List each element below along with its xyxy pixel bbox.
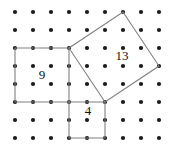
lattice-dot bbox=[49, 118, 53, 122]
lattice-dot bbox=[85, 10, 89, 14]
lattice-dot bbox=[121, 100, 125, 104]
figure-canvas: 9134 bbox=[0, 0, 179, 148]
lattice-dot bbox=[139, 64, 143, 68]
lattice-dot bbox=[121, 136, 125, 140]
lattice-dot bbox=[31, 10, 35, 14]
lattice-dot bbox=[31, 118, 35, 122]
lattice-dot bbox=[157, 100, 161, 104]
lattice-dot bbox=[121, 118, 125, 122]
lattice-dot bbox=[157, 118, 161, 122]
lattice-dot bbox=[49, 64, 53, 68]
lattice-dot bbox=[13, 136, 17, 140]
area-label: 13 bbox=[116, 48, 129, 63]
lattice-dot bbox=[31, 28, 35, 32]
lattice-dot bbox=[85, 118, 89, 122]
lattice-dot bbox=[103, 28, 107, 32]
lattice-dot bbox=[121, 82, 125, 86]
lattice-dot bbox=[85, 28, 89, 32]
lattice-dot bbox=[157, 28, 161, 32]
area-label: 4 bbox=[85, 103, 92, 118]
area-label: 9 bbox=[39, 67, 46, 82]
lattice-dot bbox=[49, 82, 53, 86]
lattice-dot bbox=[85, 64, 89, 68]
lattice-dot bbox=[13, 118, 17, 122]
lattice-dot bbox=[139, 136, 143, 140]
lattice-dot bbox=[85, 82, 89, 86]
lattice-dot bbox=[103, 64, 107, 68]
lattice-dot bbox=[139, 10, 143, 14]
lattice-dot bbox=[139, 28, 143, 32]
lattice-dot bbox=[139, 118, 143, 122]
lattice-dot bbox=[31, 82, 35, 86]
lattice-dot bbox=[31, 64, 35, 68]
lattice-dot bbox=[49, 28, 53, 32]
lattice-dot bbox=[157, 10, 161, 14]
lattice-dot bbox=[13, 28, 17, 32]
lattice-dot bbox=[121, 64, 125, 68]
lattice-dot bbox=[103, 46, 107, 50]
lattice-dot bbox=[13, 10, 17, 14]
lattice-dot bbox=[31, 136, 35, 140]
lattice-dot bbox=[85, 46, 89, 50]
lattice-dot bbox=[139, 46, 143, 50]
lattice-dot bbox=[139, 100, 143, 104]
lattice-dot bbox=[157, 136, 161, 140]
lattice-dot bbox=[49, 136, 53, 140]
lattice-dot bbox=[67, 28, 71, 32]
lattice-dot bbox=[157, 46, 161, 50]
lattice-squares-figure: 9134 bbox=[0, 0, 179, 148]
lattice-dot bbox=[103, 82, 107, 86]
lattice-dot bbox=[139, 82, 143, 86]
tilted-square bbox=[69, 12, 159, 102]
lattice-dot bbox=[67, 10, 71, 14]
lattice-dot bbox=[121, 28, 125, 32]
lattice-dot bbox=[103, 10, 107, 14]
lattice-dot bbox=[49, 10, 53, 14]
lattice-dot bbox=[157, 82, 161, 86]
